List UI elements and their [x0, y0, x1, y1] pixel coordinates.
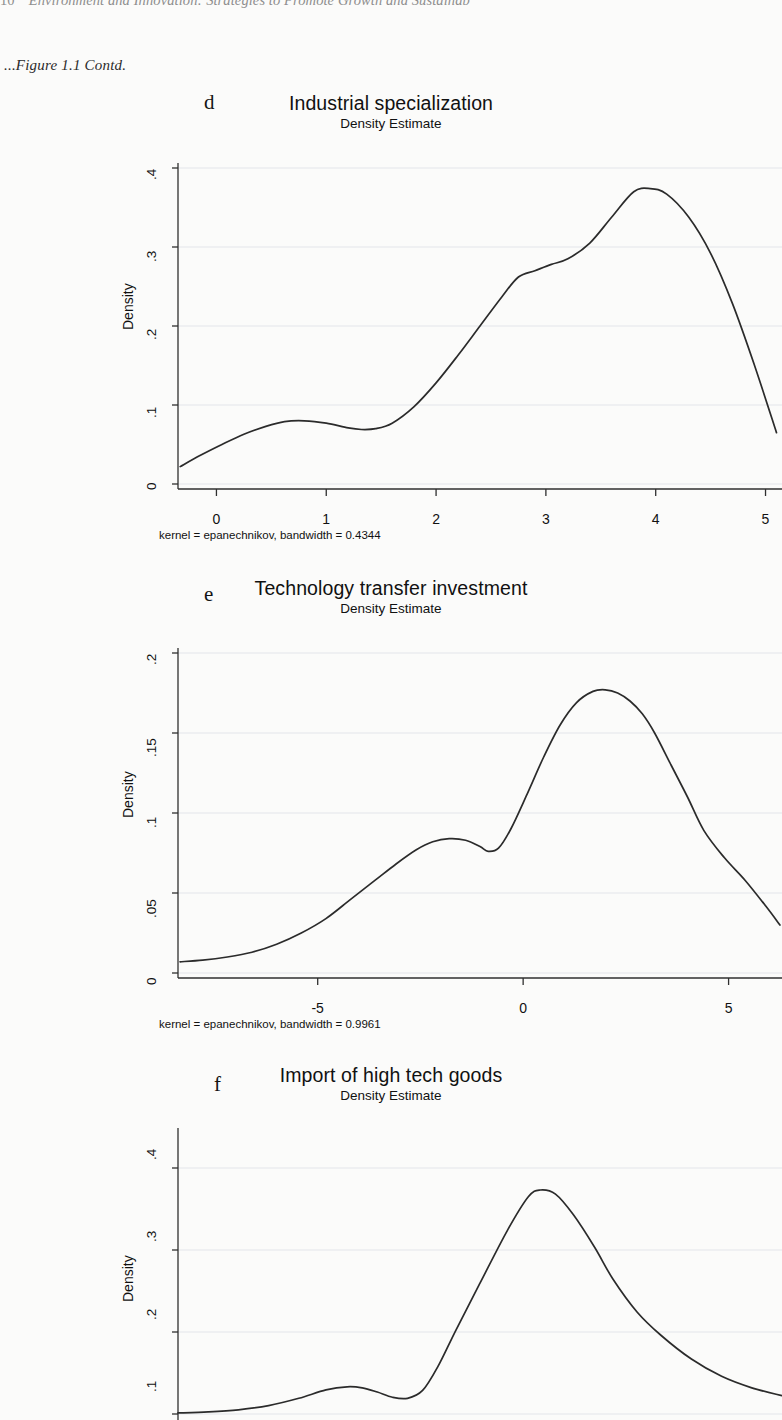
chart-panel-f: f Import of high tech goods Density Esti…	[0, 0, 782, 1420]
y-tick-f-1: .2	[144, 1309, 159, 1320]
y-tick-f-3: .4	[144, 1149, 159, 1160]
y-axis-title-f: Density	[120, 1255, 136, 1302]
plot-area-f	[170, 1128, 782, 1420]
chart-title-f: Import of high tech goods	[0, 1064, 782, 1087]
y-tick-f-0: .1	[144, 1381, 159, 1392]
document-page: 10Environment and Innovation: Strategies…	[0, 0, 782, 1420]
chart-subtitle-f: Density Estimate	[0, 1088, 782, 1103]
y-tick-f-2: .3	[144, 1231, 159, 1242]
gridlines-f	[178, 1168, 782, 1414]
axes-f	[172, 1128, 178, 1420]
density-curve-f	[178, 1190, 782, 1413]
